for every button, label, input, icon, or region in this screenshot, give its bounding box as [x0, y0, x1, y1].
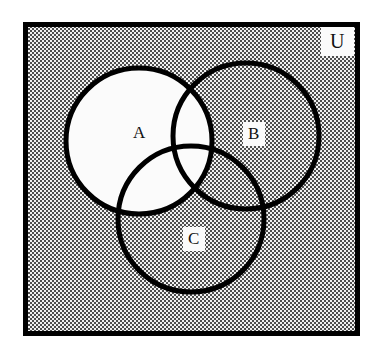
venn-diagram-figure: U A B C — [0, 0, 382, 358]
set-b-label: B — [243, 122, 265, 146]
universal-set-label: U — [321, 27, 354, 56]
set-a-label: A — [133, 124, 146, 141]
set-c-label: C — [183, 227, 205, 251]
